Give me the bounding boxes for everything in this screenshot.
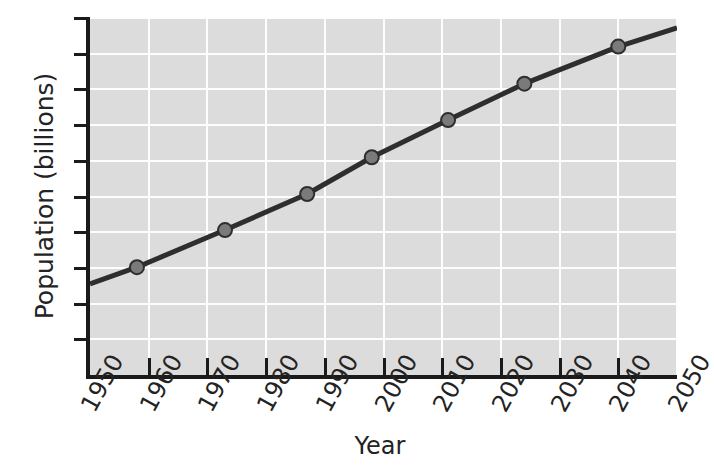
data-line xyxy=(90,28,677,284)
y-axis-tick xyxy=(74,196,90,199)
y-axis-tick xyxy=(74,267,90,270)
y-axis-tick xyxy=(74,338,90,341)
y-axis-tick xyxy=(74,160,90,163)
y-axis-tick xyxy=(74,53,90,56)
data-point-marker xyxy=(517,77,531,91)
data-point-marker xyxy=(611,40,625,54)
plot-area: 012345678910 195019601970198019902000201… xyxy=(86,18,677,379)
data-point-marker xyxy=(218,223,232,237)
x-axis-tick-label: 1950 xyxy=(77,351,128,416)
y-axis-tick xyxy=(74,231,90,234)
y-axis-tick xyxy=(74,124,90,127)
plot-inner xyxy=(90,18,677,375)
y-axis-tick xyxy=(74,303,90,306)
x-axis-title: Year xyxy=(86,432,674,460)
y-axis-title: Population (billions) xyxy=(28,16,62,376)
data-point-marker xyxy=(300,187,314,201)
y-axis-tick xyxy=(74,88,90,91)
data-series-layer xyxy=(90,18,677,375)
data-point-marker xyxy=(130,260,144,274)
y-axis-tick xyxy=(74,17,90,20)
data-point-marker xyxy=(441,113,455,127)
data-point-marker xyxy=(365,150,379,164)
